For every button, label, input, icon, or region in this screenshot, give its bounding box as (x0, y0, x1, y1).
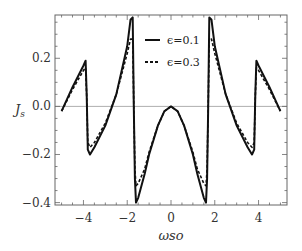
legend: ϵ=0.1 ϵ=0.3 (145, 34, 200, 69)
legend-item-solid: ϵ=0.1 (145, 34, 200, 47)
y-axis-label: Js (12, 102, 25, 119)
x-axis-label: ωso (158, 228, 183, 243)
chart: −4−2024−0.4−0.20.00.2 ωso Js ϵ=0.1 ϵ=0.3 (0, 0, 302, 251)
legend-label-eps01: ϵ=0.1 (167, 34, 200, 47)
axis-tick-labels: −4−2024−0.4−0.20.00.2 (22, 51, 263, 225)
y-tick-label: 0.0 (32, 99, 51, 113)
x-tick-label: 2 (211, 211, 219, 225)
y-tick-label: −0.2 (22, 147, 51, 161)
y-tick-label: 0.2 (32, 51, 51, 65)
legend-label-eps03: ϵ=0.3 (167, 56, 200, 69)
x-tick-label: 0 (167, 211, 175, 225)
legend-item-dashed: ϵ=0.3 (145, 56, 200, 69)
y-axis-label-sub: s (20, 109, 25, 119)
y-tick-label: −0.4 (22, 196, 52, 210)
x-tick-label: −4 (75, 211, 93, 225)
x-tick-label: 4 (255, 211, 263, 225)
x-tick-label: −2 (118, 211, 136, 225)
